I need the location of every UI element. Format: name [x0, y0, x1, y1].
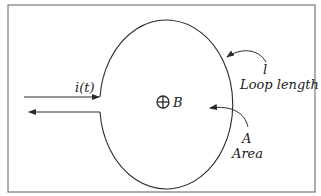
- loop-diagram: i(t) B l Loop length A Area: [0, 0, 321, 196]
- loop-length-symbol: l: [263, 62, 267, 77]
- area-pointer: [210, 107, 248, 127]
- loop-length-text: Loop length: [239, 77, 319, 92]
- field-into-page-icon: [157, 96, 169, 108]
- frame-border: [8, 5, 315, 192]
- current-loop: [100, 20, 233, 189]
- loop-length-pointer: [227, 51, 266, 62]
- area-text: Area: [231, 146, 263, 161]
- current-label: i(t): [75, 80, 95, 95]
- field-label: B: [172, 95, 183, 110]
- area-symbol: A: [241, 131, 251, 146]
